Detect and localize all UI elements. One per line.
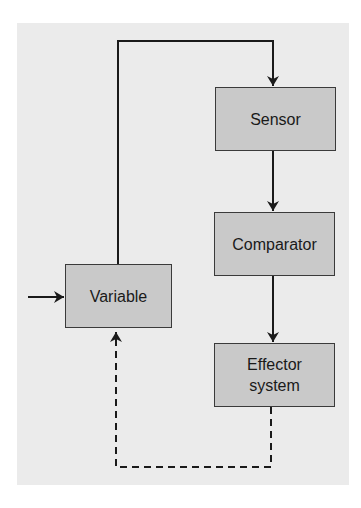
variable-box: Variable bbox=[65, 264, 172, 328]
effector-label-line2: system bbox=[249, 375, 300, 396]
sensor-label: Sensor bbox=[250, 109, 301, 130]
comparator-box: Comparator bbox=[214, 212, 335, 276]
sensor-box: Sensor bbox=[215, 87, 336, 151]
effector-label-line1: Effector bbox=[247, 354, 302, 375]
variable-label: Variable bbox=[90, 286, 148, 307]
effector-system-box: Effector system bbox=[214, 343, 335, 407]
comparator-label: Comparator bbox=[232, 234, 316, 255]
